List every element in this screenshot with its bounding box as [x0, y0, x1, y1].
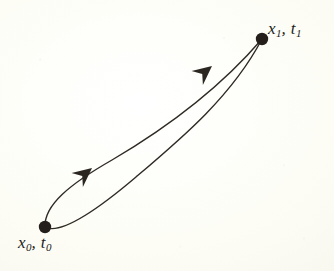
endpoint-label-initial: x0, t0 — [18, 233, 51, 253]
final-separator: , — [281, 19, 290, 38]
initial-t-subscript: 0 — [46, 241, 52, 253]
paths-diagram — [0, 0, 334, 271]
endpoint-label-final: x1, t1 — [268, 19, 301, 39]
endpoint-dot-initial — [39, 221, 51, 233]
initial-x-symbol: x — [18, 233, 26, 252]
direction-arrowhead-upper — [192, 66, 212, 85]
figure-canvas: x1, t1 x0, t0 — [0, 0, 334, 271]
endpoint-dot-final — [256, 33, 268, 45]
trajectory-path-upper — [45, 39, 262, 227]
final-t-subscript: 1 — [296, 27, 302, 39]
final-x-symbol: x — [268, 19, 276, 38]
initial-separator: , — [31, 233, 40, 252]
initial-x-subscript: 0 — [26, 241, 32, 253]
final-x-subscript: 1 — [276, 27, 282, 39]
